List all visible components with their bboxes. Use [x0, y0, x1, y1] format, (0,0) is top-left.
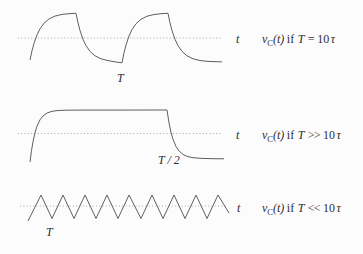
- time-axis-label-row1: t: [236, 33, 239, 46]
- condition-label-row3: vC(t)ifT<<10τ: [262, 202, 341, 215]
- time-argument: (t): [273, 128, 284, 142]
- square-waveform-path: [30, 110, 224, 162]
- waveform-figure: t vC(t)ifT=10τ T t vC(t)ifT>>10τ T / 2 t…: [0, 0, 363, 254]
- relation-much-less: <<: [308, 201, 320, 215]
- value-ten: 10: [323, 201, 335, 215]
- condition-label-row2: vC(t)ifT>>10τ: [262, 129, 341, 142]
- period-variable: T: [298, 128, 305, 142]
- relation-equals: =: [308, 32, 314, 46]
- half-period-label-row2: T / 2: [158, 154, 180, 167]
- time-axis-label-row2: t: [236, 129, 239, 142]
- tau-symbol: τ: [336, 128, 340, 142]
- period-label-row3: T: [46, 226, 53, 239]
- period-variable: T: [298, 32, 305, 46]
- relation-much-greater: >>: [308, 128, 320, 142]
- value-ten: 10: [317, 32, 329, 46]
- if-word: if: [287, 32, 294, 46]
- if-word: if: [287, 128, 294, 142]
- period-label-row1: T: [117, 72, 124, 85]
- period-variable: T: [298, 201, 305, 215]
- tau-symbol: τ: [331, 32, 335, 46]
- tau-symbol: τ: [336, 201, 340, 215]
- time-argument: (t): [273, 201, 284, 215]
- condition-label-row1: vC(t)ifT=10τ: [262, 33, 335, 46]
- triangle-waveform-path: [28, 195, 229, 221]
- time-axis-label-row3: t: [237, 202, 240, 215]
- value-ten: 10: [323, 128, 335, 142]
- if-word: if: [287, 201, 294, 215]
- time-argument: (t): [273, 32, 284, 46]
